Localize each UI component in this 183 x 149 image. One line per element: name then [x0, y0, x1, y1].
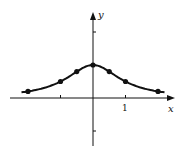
data-point — [155, 89, 160, 94]
data-point — [90, 62, 95, 67]
y-axis-label: y — [97, 9, 104, 20]
y-axis-arrow-icon — [90, 12, 96, 20]
x-axis-arrow-icon — [167, 95, 175, 101]
data-point — [25, 89, 30, 94]
axes — [10, 12, 175, 146]
x-tick-label-1: 1 — [122, 103, 128, 113]
data-point — [58, 79, 63, 84]
data-point — [123, 79, 128, 84]
graph: x y 1 — [0, 0, 183, 149]
data-point — [74, 69, 79, 74]
data-point — [107, 69, 112, 74]
x-axis-label: x — [168, 103, 174, 114]
